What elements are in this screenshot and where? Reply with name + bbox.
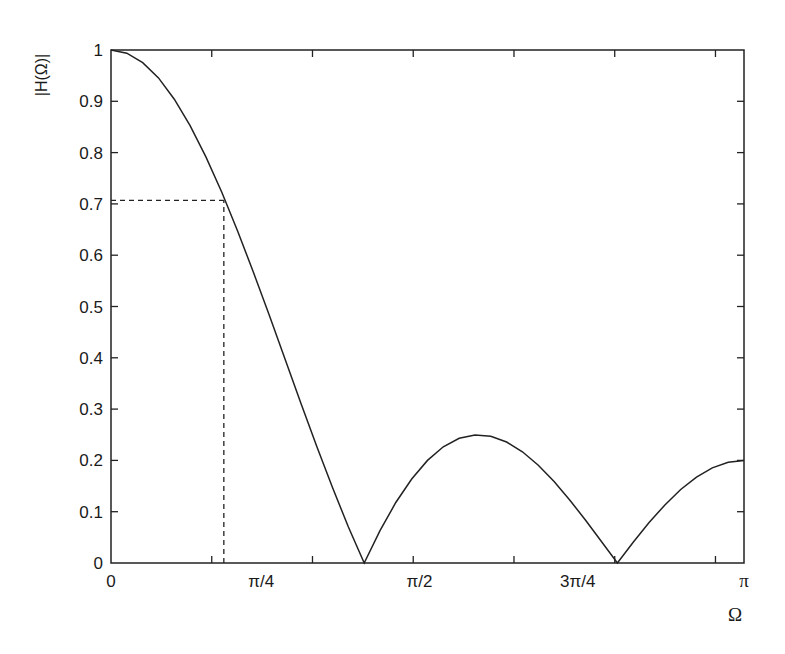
y-tick-label: 0.9: [79, 92, 103, 111]
x-tick-label: 3π/4: [560, 572, 595, 591]
plot-frame: [111, 50, 744, 563]
x-axis-ticks: [212, 50, 716, 563]
x-tick-label: π/2: [407, 572, 433, 591]
y-axis-ticks: [111, 101, 744, 511]
x-axis-title: Ω: [728, 604, 742, 625]
y-tick-label: 1: [94, 41, 103, 60]
y-tick-label: 0.8: [79, 144, 103, 163]
chart: 00.10.20.30.40.50.60.70.80.91 0π/4π/23π/…: [0, 0, 785, 654]
y-tick-label: 0.2: [79, 451, 103, 470]
cutoff-annotation: [111, 200, 224, 563]
y-tick-label: 0.4: [79, 349, 103, 368]
y-tick-label: 0.5: [79, 298, 103, 317]
y-tick-label: 0.7: [79, 195, 103, 214]
y-tick-label: 0.1: [79, 503, 103, 522]
x-tick-label: 0: [106, 572, 115, 591]
y-tick-label: 0.3: [79, 400, 103, 419]
y-tick-label: 0: [94, 554, 103, 573]
y-tick-label: 0.6: [79, 246, 103, 265]
y-axis-title: |H(Ω)|: [33, 54, 50, 96]
x-tick-label: π: [739, 570, 749, 591]
x-axis-tick-labels: 0π/4π/23π/4π: [106, 570, 749, 591]
x-tick-label: π/4: [248, 572, 274, 591]
y-axis-tick-labels: 00.10.20.30.40.50.60.70.80.91: [79, 41, 103, 573]
magnitude-response-curve: [111, 50, 744, 563]
